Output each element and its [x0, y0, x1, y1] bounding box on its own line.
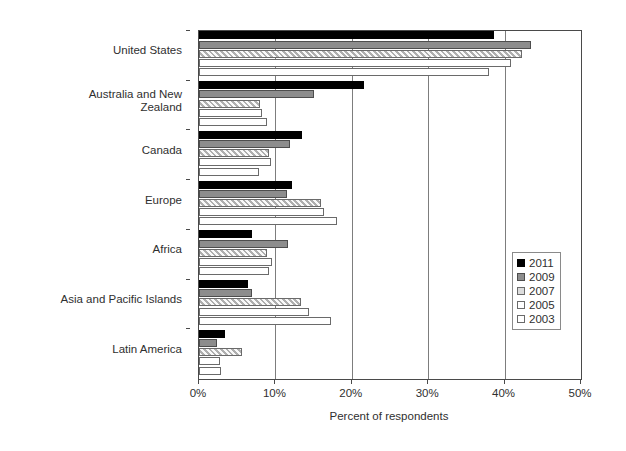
bar-group	[199, 329, 581, 379]
bar	[199, 41, 531, 49]
bar-row	[199, 149, 581, 157]
bar-row	[199, 140, 581, 148]
category-tick	[186, 80, 190, 81]
bar-chart: United StatesAustralia and New ZealandCa…	[0, 0, 626, 451]
bar-row	[199, 199, 581, 207]
bar	[199, 367, 221, 375]
bar	[199, 199, 321, 207]
bar-row	[199, 59, 581, 67]
bar	[199, 118, 267, 126]
bar	[199, 31, 494, 39]
category-label: Australia and New Zealand	[0, 88, 182, 114]
x-tick	[427, 379, 428, 384]
bar	[199, 149, 269, 157]
bar	[199, 249, 267, 257]
legend-item[interactable]: 2007	[517, 284, 555, 298]
bar-row	[199, 81, 581, 89]
legend-swatch-icon	[517, 301, 525, 309]
legend-label: 2003	[529, 313, 555, 326]
category-label: United States	[0, 44, 182, 57]
bar-row	[199, 339, 581, 347]
bar-row	[199, 100, 581, 108]
bar	[199, 357, 220, 365]
x-tick-label: 0%	[190, 387, 207, 399]
x-axis-tick-labels: 0%10%20%30%40%50%	[0, 387, 626, 403]
x-tick	[580, 379, 581, 384]
bar-row	[199, 50, 581, 58]
bar	[199, 158, 271, 166]
category-tick	[186, 279, 190, 280]
bar-row	[199, 208, 581, 216]
legend-label: 2011	[529, 257, 554, 270]
x-tick-label: 20%	[339, 387, 362, 399]
bar	[199, 168, 259, 176]
category-tick	[186, 229, 190, 230]
chart-legend: 20112009200720052003	[512, 252, 561, 330]
legend-swatch-icon	[517, 273, 525, 281]
bar-group	[199, 31, 581, 81]
bar	[199, 109, 262, 117]
bar-row	[199, 168, 581, 176]
bar	[199, 50, 522, 58]
bar	[199, 90, 314, 98]
bar	[199, 348, 242, 356]
bar	[199, 317, 331, 325]
x-axis-title: Percent of respondents	[198, 410, 580, 422]
x-tick	[504, 379, 505, 384]
bar	[199, 258, 272, 266]
bar	[199, 289, 252, 297]
bar-row	[199, 240, 581, 248]
legend-item[interactable]: 2009	[517, 270, 555, 284]
legend-swatch-icon	[517, 287, 525, 295]
x-tick-label: 40%	[492, 387, 515, 399]
bar	[199, 240, 288, 248]
bar-row	[199, 90, 581, 98]
bar	[199, 181, 292, 189]
bar-row	[199, 348, 581, 356]
bar-row	[199, 158, 581, 166]
bar-row	[199, 118, 581, 126]
category-label: Canada	[0, 144, 182, 157]
bar-row	[199, 131, 581, 139]
bar-row	[199, 330, 581, 338]
bar-row	[199, 31, 581, 39]
legend-label: 2009	[529, 271, 555, 284]
bar-row	[199, 230, 581, 238]
x-tick-label: 30%	[416, 387, 439, 399]
bar	[199, 81, 364, 89]
bar-row	[199, 41, 581, 49]
bar	[199, 308, 309, 316]
bar-row	[199, 367, 581, 375]
bar	[199, 217, 337, 225]
bar-row	[199, 181, 581, 189]
bar	[199, 330, 225, 338]
legend-item[interactable]: 2005	[517, 298, 555, 312]
bar	[199, 339, 217, 347]
category-label: Latin America	[0, 343, 182, 356]
legend-swatch-icon	[517, 259, 525, 267]
category-tick	[186, 328, 190, 329]
category-axis-labels: United StatesAustralia and New ZealandCa…	[0, 30, 190, 378]
category-label: Africa	[0, 243, 182, 256]
x-tick-label: 50%	[568, 387, 591, 399]
bar	[199, 208, 324, 216]
x-tick	[351, 379, 352, 384]
category-tick	[186, 30, 190, 31]
bar-row	[199, 68, 581, 76]
bar-row	[199, 217, 581, 225]
legend-item[interactable]: 2011	[517, 256, 555, 270]
bar	[199, 100, 260, 108]
x-tick	[198, 379, 199, 384]
bar-row	[199, 190, 581, 198]
legend-label: 2005	[529, 299, 555, 312]
bar	[199, 59, 511, 67]
bar	[199, 298, 301, 306]
legend-item[interactable]: 2003	[517, 312, 555, 326]
category-tick	[186, 129, 190, 130]
legend-swatch-icon	[517, 315, 525, 323]
bar-row	[199, 357, 581, 365]
bar-group	[199, 130, 581, 180]
x-tick-label: 10%	[263, 387, 286, 399]
bar	[199, 140, 290, 148]
bar	[199, 267, 269, 275]
